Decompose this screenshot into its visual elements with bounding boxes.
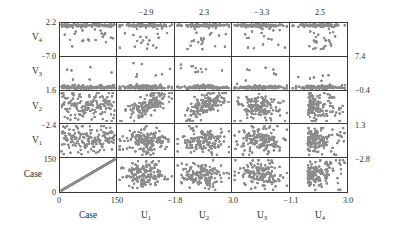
panel-canvas bbox=[232, 23, 288, 56]
tick-right-v3-max: 7.4 bbox=[355, 53, 389, 61]
col-label-u4: U4 bbox=[291, 211, 349, 220]
col-label-u2-text: U bbox=[199, 210, 206, 220]
row-label-v1: V1 bbox=[4, 136, 42, 145]
tick-left-v2-max: 1.6 bbox=[26, 87, 56, 95]
panel-canvas bbox=[290, 124, 347, 157]
panel-v3-u3 bbox=[232, 57, 289, 91]
panel-v1-u2 bbox=[175, 124, 232, 158]
row-label-v4: V4 bbox=[4, 33, 42, 42]
tick-right-v2-max: −0.4 bbox=[355, 87, 389, 95]
panel-canvas bbox=[290, 158, 347, 192]
panel-v2-u4 bbox=[290, 91, 347, 125]
panel-v4-u3 bbox=[232, 23, 289, 57]
tick-top-u3: −3.3 bbox=[233, 9, 291, 17]
panel-canvas bbox=[175, 124, 231, 157]
matrix-grid bbox=[59, 22, 348, 193]
tick-bottom-u4-max: 3.0 bbox=[338, 197, 358, 205]
tick-left-case-min: 0 bbox=[26, 189, 56, 197]
panel-v2-u2 bbox=[175, 91, 232, 125]
col-label-u4-text: U bbox=[315, 210, 322, 220]
row-label-v4-text: V bbox=[32, 32, 39, 42]
tick-bottom-u2-max: 3.0 bbox=[223, 197, 243, 205]
panel-canvas bbox=[290, 57, 347, 90]
panel-case-case bbox=[60, 158, 117, 192]
panel-v3-u2 bbox=[175, 57, 232, 91]
panel-canvas bbox=[175, 158, 231, 192]
row-label-v1-sub: 1 bbox=[39, 139, 42, 146]
panel-canvas bbox=[117, 158, 173, 192]
row-label-v3-text: V bbox=[32, 66, 39, 76]
panel-v2-case bbox=[60, 91, 117, 125]
col-label-u4-sub: 4 bbox=[322, 214, 325, 221]
col-label-u1-text: U bbox=[141, 210, 148, 220]
panel-canvas bbox=[117, 57, 173, 90]
panel-v4-u2 bbox=[175, 23, 232, 57]
panel-case-u1 bbox=[117, 158, 174, 192]
panel-v4-case bbox=[60, 23, 117, 57]
panel-canvas bbox=[290, 23, 347, 56]
tick-right-v1-max: 1.3 bbox=[355, 122, 389, 130]
row-label-v3: V3 bbox=[4, 67, 42, 76]
panel-canvas bbox=[60, 57, 116, 90]
tick-right-v1-min: −2.8 bbox=[355, 156, 389, 164]
panel-v1-u4 bbox=[290, 124, 347, 158]
panel-v4-u1 bbox=[117, 23, 174, 57]
col-label-u3-sub: 3 bbox=[264, 214, 267, 221]
panel-canvas bbox=[290, 91, 347, 124]
panel-v1-u1 bbox=[117, 124, 174, 158]
row-label-v2-text: V bbox=[32, 101, 39, 111]
panel-v3-case bbox=[60, 57, 117, 91]
col-label-u2: U2 bbox=[175, 211, 233, 220]
panel-canvas bbox=[175, 23, 231, 56]
panel-v3-u1 bbox=[117, 57, 174, 91]
row-label-v2: V2 bbox=[4, 102, 42, 111]
panel-v3-u4 bbox=[290, 57, 347, 91]
tick-left-case-max: 150 bbox=[26, 156, 56, 164]
row-label-v4-sub: 4 bbox=[39, 36, 42, 43]
col-label-case: Case bbox=[59, 211, 117, 220]
panel-canvas bbox=[232, 57, 288, 90]
row-label-case-text: Case bbox=[24, 169, 42, 179]
tick-left-v4-min: −7.0 bbox=[26, 53, 56, 61]
col-label-u1-sub: 1 bbox=[148, 214, 151, 221]
scatterplot-matrix-figure: −2.9 2.3 −3.3 2.5 2.2 −7.0 1.6 −2.4 150 … bbox=[0, 0, 396, 235]
tick-top-u4: 2.5 bbox=[291, 9, 349, 17]
panel-canvas bbox=[117, 124, 173, 157]
panel-v4-u4 bbox=[290, 23, 347, 57]
panel-canvas bbox=[117, 91, 173, 124]
row-label-v3-sub: 3 bbox=[39, 70, 42, 77]
tick-bottom-case-max: 150 bbox=[107, 197, 127, 205]
panel-v2-u3 bbox=[232, 91, 289, 125]
panel-canvas bbox=[175, 57, 231, 90]
panel-v2-u1 bbox=[117, 91, 174, 125]
row-label-case: Case bbox=[1, 170, 42, 179]
panel-case-u4 bbox=[290, 158, 347, 192]
panel-case-u3 bbox=[232, 158, 289, 192]
col-label-u1: U1 bbox=[117, 211, 175, 220]
row-label-v1-text: V bbox=[32, 135, 39, 145]
panel-canvas bbox=[232, 91, 288, 124]
col-label-u3: U3 bbox=[233, 211, 291, 220]
panel-v1-case bbox=[60, 124, 117, 158]
row-label-v2-sub: 2 bbox=[39, 105, 42, 112]
panel-canvas bbox=[232, 158, 288, 192]
col-label-case-text: Case bbox=[79, 210, 97, 220]
panel-canvas bbox=[60, 158, 116, 192]
panel-v1-u3 bbox=[232, 124, 289, 158]
tick-bottom-u1-max: −1.8 bbox=[164, 197, 186, 205]
panel-canvas bbox=[175, 91, 231, 124]
panel-canvas bbox=[60, 91, 116, 124]
panel-canvas bbox=[117, 23, 173, 56]
tick-top-u1: −2.9 bbox=[117, 9, 175, 17]
panel-canvas bbox=[60, 124, 116, 157]
tick-left-v2-min: −2.4 bbox=[26, 122, 56, 130]
tick-top-u2: 2.3 bbox=[175, 9, 233, 17]
tick-bottom-u3-max: −1.1 bbox=[280, 197, 302, 205]
panel-canvas bbox=[232, 124, 288, 157]
panel-case-u2 bbox=[175, 158, 232, 192]
panel-canvas bbox=[60, 23, 116, 56]
col-label-u3-text: U bbox=[257, 210, 264, 220]
tick-bottom-case-min: 0 bbox=[49, 197, 69, 205]
col-label-u2-sub: 2 bbox=[206, 214, 209, 221]
tick-left-v4-max: 2.2 bbox=[26, 19, 56, 27]
